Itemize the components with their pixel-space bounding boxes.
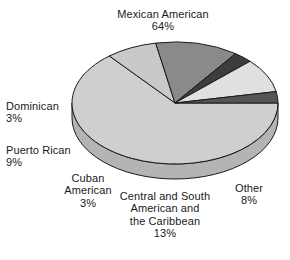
slice-label-other: Other 8% <box>220 182 278 207</box>
slice-label-percent: 8% <box>220 194 278 206</box>
slice-label-name-line1: Central and South <box>110 190 220 202</box>
pie-chart: Mexican American 64% Dominican 3% Puerto… <box>0 0 290 260</box>
slice-label-name: Mexican American <box>103 8 223 20</box>
slice-label-name: Puerto Rican <box>6 144 92 156</box>
slice-label-dominican: Dominican 3% <box>2 100 92 125</box>
slice-label-central-and-south-american-and-the-caribbean: Central and South American and the Carib… <box>110 190 220 240</box>
slice-label-percent: 9% <box>6 156 92 168</box>
slice-label-mexican-american: Mexican American 64% <box>103 8 223 33</box>
slice-label-puerto-rican: Puerto Rican 9% <box>2 144 92 169</box>
slice-label-name: Other <box>220 182 278 194</box>
slice-label-name-line1: Cuban <box>50 172 126 184</box>
slice-label-name-line3: the Caribbean <box>110 215 220 227</box>
slice-label-name: Dominican <box>6 100 92 112</box>
slice-label-percent: 13% <box>110 227 220 239</box>
pie-top-faces <box>72 42 278 164</box>
slice-label-name-line2: American and <box>110 202 220 214</box>
slice-label-percent: 3% <box>6 112 92 124</box>
slice-label-percent: 64% <box>103 20 223 32</box>
